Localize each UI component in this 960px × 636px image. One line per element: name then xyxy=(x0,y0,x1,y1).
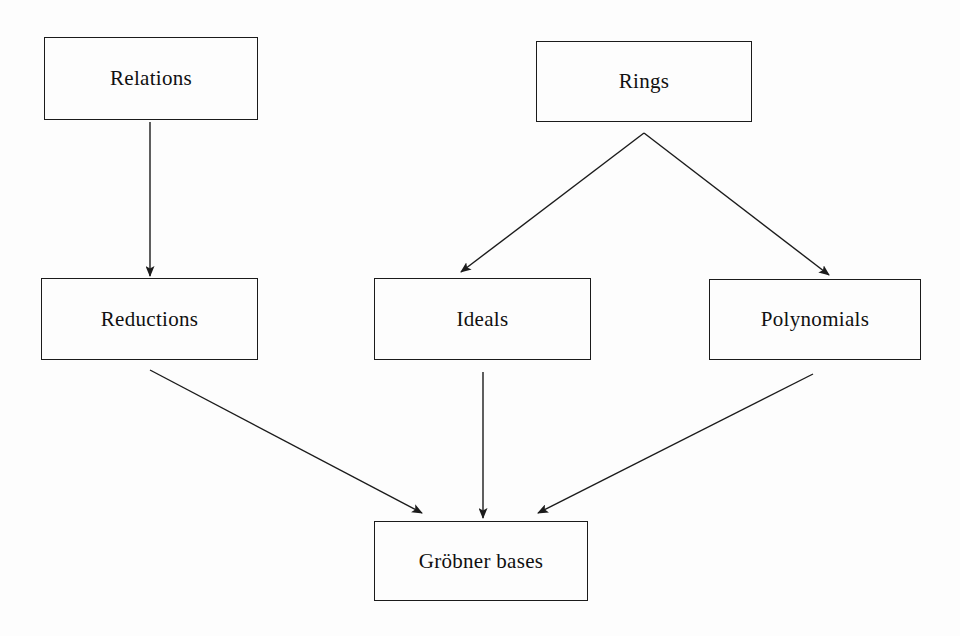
node-ideals[interactable]: Ideals xyxy=(374,278,591,360)
edge-rings-to-polynomials xyxy=(644,133,829,275)
node-polynomials-label: Polynomials xyxy=(761,309,869,330)
diagram-canvas: Relations Rings Reductions Ideals Polyno… xyxy=(0,0,960,636)
node-reductions[interactable]: Reductions xyxy=(41,278,258,360)
node-rings[interactable]: Rings xyxy=(536,41,752,122)
node-polynomials[interactable]: Polynomials xyxy=(709,279,921,360)
node-relations-label: Relations xyxy=(110,68,192,89)
node-relations[interactable]: Relations xyxy=(44,37,258,120)
node-rings-label: Rings xyxy=(619,71,670,92)
edge-reductions-to-grobner xyxy=(150,370,422,513)
node-grobner-bases-label: Gröbner bases xyxy=(419,551,544,572)
node-ideals-label: Ideals xyxy=(457,309,509,330)
edge-polynomials-to-grobner xyxy=(538,374,813,513)
edge-rings-to-ideals xyxy=(461,133,644,272)
node-grobner-bases[interactable]: Gröbner bases xyxy=(374,521,588,601)
node-reductions-label: Reductions xyxy=(101,309,199,330)
